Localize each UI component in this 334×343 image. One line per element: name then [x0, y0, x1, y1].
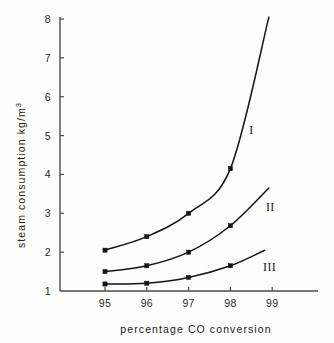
data-point-marker: [187, 211, 191, 215]
data-point-marker: [187, 275, 191, 279]
y-tick-label: 1: [45, 285, 51, 297]
x-tick-label: 98: [224, 297, 236, 309]
data-point-marker: [103, 282, 107, 286]
y-tick-label: 3: [45, 207, 51, 219]
x-tick-label: 95: [99, 297, 111, 309]
data-point-marker: [187, 250, 191, 254]
data-point-marker: [228, 167, 232, 171]
data-point-marker: [228, 264, 232, 268]
x-tick-label: 97: [182, 297, 194, 309]
y-tick-label: 5: [45, 130, 51, 142]
chart-plot-area: 12345678 9596979899 IIIIII steam consump…: [0, 0, 334, 343]
data-point-marker: [145, 264, 149, 268]
data-curve-iii: [105, 250, 265, 284]
y-tick-label: 4: [45, 168, 51, 180]
curve-label-iii: III: [263, 260, 276, 274]
curve-label-ii: II: [266, 200, 275, 214]
x-axis-title: percentage CO conversion: [120, 323, 271, 335]
y-tick-label: 8: [45, 13, 51, 25]
y-axis-title-group: steam consumption kg/m3: [14, 102, 27, 248]
data-curves: [105, 17, 269, 284]
data-point-marker: [145, 235, 149, 239]
data-point-marker: [228, 224, 232, 228]
y-tick-label: 2: [45, 246, 51, 258]
data-curve-ii: [105, 188, 269, 272]
y-axis-title: steam consumption kg/m3: [14, 102, 27, 248]
curve-label-i: I: [249, 123, 253, 137]
x-tick-label: 99: [266, 297, 278, 309]
data-point-marker: [103, 248, 107, 252]
y-axis-ticks: 12345678: [45, 13, 64, 297]
chart-figure: 12345678 9596979899 IIIIII steam consump…: [0, 0, 334, 343]
x-tick-label: 96: [141, 297, 153, 309]
data-point-marker: [103, 269, 107, 273]
data-point-marker: [145, 281, 149, 285]
y-tick-label: 7: [45, 52, 51, 64]
y-tick-label: 6: [45, 91, 51, 103]
